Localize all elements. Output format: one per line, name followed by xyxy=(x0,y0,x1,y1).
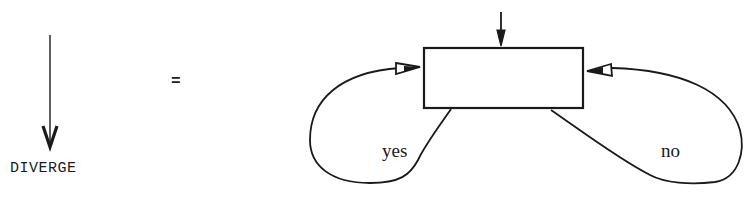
yes-loop-path xyxy=(310,63,451,183)
entry-arrow-icon xyxy=(497,12,505,46)
diverge-label: DIVERGE xyxy=(10,160,77,177)
process-box xyxy=(424,48,583,108)
diverge-diagram: DIVERGE = yes no xyxy=(0,0,751,201)
no-label: no xyxy=(661,140,680,162)
equals-sign: = xyxy=(171,73,181,91)
yes-label: yes xyxy=(382,140,407,162)
no-loop-path xyxy=(551,64,742,183)
diverge-arrow-icon xyxy=(43,35,57,147)
